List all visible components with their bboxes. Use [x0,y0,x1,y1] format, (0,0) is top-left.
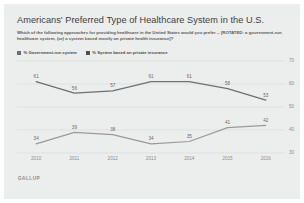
x-axis-tick-label: 2014 [170,156,208,161]
y-axis-tick-labels: 3040506070 [289,58,295,155]
series-lines [36,82,266,144]
point-value-label: 58 [225,81,231,86]
point-value-label: 34 [34,136,40,141]
point-value-label: 53 [263,93,269,98]
point-value-label: 61 [187,74,193,79]
chart-legend: % Government-run system % System based o… [17,50,167,55]
legend-item-government-run[interactable]: % Government-run system [17,50,77,55]
y-axis-tick-label: 30 [289,150,295,155]
point-value-label: 57 [110,83,116,88]
legend-label: % Government-run system [24,50,77,55]
point-value-label: 39 [72,125,78,130]
y-axis-tick-label: 70 [289,58,295,63]
x-axis-tick-label: 2011 [55,156,93,161]
chart-subtitle: Which of the following approaches for pr… [17,30,285,43]
y-axis-tick-label: 40 [289,127,295,132]
y-axis-tick-label: 60 [289,81,295,86]
source-attribution: GALLUP [18,176,40,181]
point-value-label: 38 [110,127,116,132]
x-axis-tick-label: 2013 [132,156,170,161]
point-value-label: 34 [148,136,154,141]
point-value-label: 61 [148,74,154,79]
x-axis-tick-label: 2010 [17,156,55,161]
point-value-label: 56 [72,86,78,91]
y-axis-tick-label: 50 [289,104,295,109]
point-value-label: 61 [34,74,40,79]
point-value-label: 41 [225,120,231,125]
series-line-government-run [36,82,266,100]
line-chart-svg: 6156576161585334393834354142 3040506070 [17,61,285,153]
x-axis-tick-label: 2015 [208,156,246,161]
legend-item-private-insurance[interactable]: % System based on private insurance [86,50,168,55]
legend-swatch-icon [86,51,90,55]
chart-plot-area: 6156576161585334393834354142 3040506070 [17,61,285,153]
point-value-label: 42 [263,118,269,123]
chart-title: Americans' Preferred Type of Healthcare … [17,15,264,25]
legend-label: % System based on private insurance [92,50,167,55]
chart-card: Americans' Preferred Type of Healthcare … [4,4,300,199]
point-value-label: 35 [187,134,193,139]
x-axis-tick-labels: 2010201120122013201420152016 [17,156,285,161]
legend-swatch-icon [17,51,21,55]
x-axis-tick-label: 2012 [94,156,132,161]
x-axis-tick-label: 2016 [247,156,285,161]
